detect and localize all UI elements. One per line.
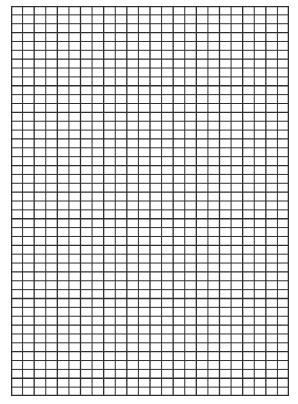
grid-paper-sheet (11, 6, 289, 396)
grid-lines (11, 6, 289, 396)
